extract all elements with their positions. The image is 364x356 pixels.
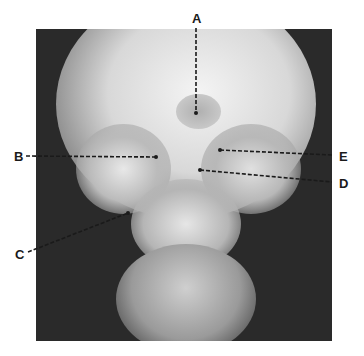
- callout-line-b: [26, 156, 156, 157]
- callout-line-e: [220, 150, 332, 155]
- label-e: E: [339, 150, 348, 163]
- callout-line-c: [28, 213, 128, 252]
- callout-line-d: [200, 170, 332, 182]
- label-c: C: [15, 248, 24, 261]
- label-d: D: [339, 177, 348, 190]
- callout-lines: [0, 0, 364, 356]
- label-b: B: [14, 150, 23, 163]
- label-a: A: [192, 12, 201, 25]
